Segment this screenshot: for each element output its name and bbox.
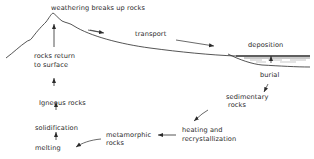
label-metamorphic-line2: rocks: [106, 140, 124, 148]
label-weathering: weathering breaks up rocks: [51, 5, 145, 13]
label-rocks-return-line1: rocks return: [34, 53, 75, 61]
label-heating-line2: recrystallization: [182, 136, 236, 144]
label-igneous: Igneous rocks: [39, 100, 86, 108]
label-melting: melting: [35, 145, 61, 153]
rock-cycle-diagram: weathering breaks up rocks transport dep…: [0, 0, 314, 159]
label-deposition: deposition: [248, 42, 283, 50]
label-transport: transport: [135, 31, 166, 39]
label-sedimentary-line2: rocks: [228, 102, 246, 110]
label-solidification: solidification: [35, 125, 78, 133]
diagram-artwork: [0, 0, 314, 159]
label-heating-line1: heating and: [182, 127, 223, 135]
label-burial: burial: [260, 72, 279, 80]
label-rocks-return-line2: to surface: [34, 62, 68, 70]
